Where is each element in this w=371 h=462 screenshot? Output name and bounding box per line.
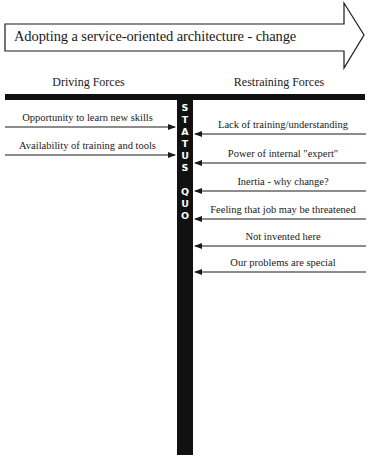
status-quo-letter: O	[177, 210, 193, 222]
status-quo-letter: U	[177, 150, 193, 162]
restraining-force-label: Our problems are special	[198, 257, 368, 268]
restraining-forces-heading: Restraining Forces	[193, 75, 365, 90]
status-quo-letter: T	[177, 114, 193, 126]
status-quo-letter: T	[177, 138, 193, 150]
restraining-force-label: Not invented here	[198, 231, 368, 242]
driving-forces-heading: Driving Forces	[0, 75, 177, 90]
restraining-force-label: Feeling that job may be threatened	[198, 204, 368, 215]
restraining-force-label: Inertia - why change?	[198, 176, 368, 187]
change-arrow-label: Adopting a service-oriented architecture…	[14, 28, 296, 45]
driving-force-label: Opportunity to learn new skills	[0, 112, 175, 123]
status-quo-letter: Q	[177, 186, 193, 198]
status-quo-letter: S	[177, 102, 193, 114]
restraining-force-label: Power of internal "expert"	[198, 148, 368, 159]
status-quo-letter: A	[177, 126, 193, 138]
driving-force-label: Availability of training and tools	[0, 140, 175, 151]
status-quo-letter: U	[177, 198, 193, 210]
status-quo-letter: S	[177, 162, 193, 174]
restraining-force-label: Lack of training/understanding	[198, 119, 368, 130]
